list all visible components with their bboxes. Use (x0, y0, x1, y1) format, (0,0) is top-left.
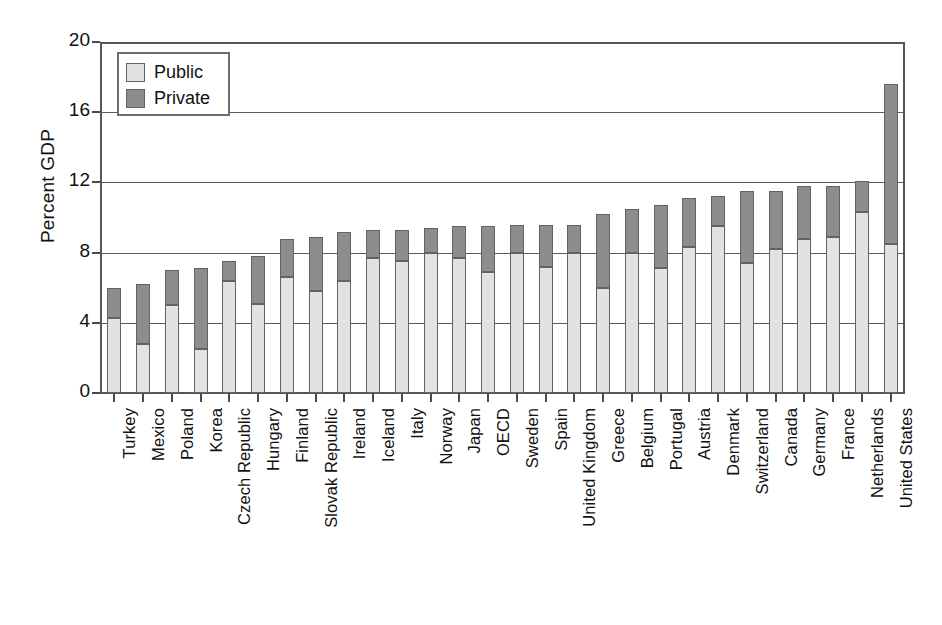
bar-segment-private (740, 191, 754, 263)
bar-segment-public (280, 277, 294, 393)
x-tick-mark (200, 394, 202, 402)
bar-segment-public (855, 212, 869, 393)
x-tick-label: Turkey (120, 408, 139, 458)
x-tick-mark (113, 394, 115, 402)
y-tick-mark (92, 252, 100, 254)
bar-segment-public (136, 344, 150, 393)
x-tick-mark (228, 394, 230, 402)
x-tick-label: Japan (465, 408, 484, 453)
bar-segment-public (682, 247, 696, 393)
y-tick-mark (92, 41, 100, 43)
x-tick-label: Italy (408, 408, 427, 439)
bar-segment-public (165, 305, 179, 393)
x-tick-label: Denmark (724, 408, 743, 476)
bar-slovak-republic (309, 237, 323, 393)
y-tick-mark (92, 322, 100, 324)
x-tick-mark (516, 394, 518, 402)
bar-segment-public (337, 281, 351, 393)
y-tick-label: 4 (44, 310, 90, 332)
x-tick-label: Slovak Republic (322, 408, 341, 528)
x-tick-mark (372, 394, 374, 402)
bar-segment-private (309, 237, 323, 291)
y-tick-mark (92, 181, 100, 183)
bar-segment-private (194, 268, 208, 349)
x-tick-mark (631, 394, 633, 402)
bar-segment-private (682, 198, 696, 247)
bar-segment-private (337, 232, 351, 281)
bar-czech-republic (222, 261, 236, 393)
x-tick-label: Netherlands (868, 408, 887, 498)
y-tick-label: 12 (44, 169, 90, 191)
x-tick-mark (746, 394, 748, 402)
x-tick-label: Belgium (638, 408, 657, 468)
x-tick-label: Ireland (350, 408, 369, 459)
chart-figure: Percent GDP 048121620 TurkeyMexicoPoland… (0, 0, 942, 625)
bar-segment-private (855, 181, 869, 213)
bar-segment-private (452, 226, 466, 258)
y-tick-label: 8 (44, 240, 90, 262)
bar-segment-private (424, 228, 438, 253)
x-tick-mark (832, 394, 834, 402)
legend-item-private: Private (126, 86, 221, 110)
x-tick-mark (142, 394, 144, 402)
bar-segment-public (251, 304, 265, 394)
bar-segment-public (424, 253, 438, 393)
x-tick-mark (573, 394, 575, 402)
x-tick-mark (401, 394, 403, 402)
x-tick-label: Norway (437, 408, 456, 465)
bar-segment-public (107, 318, 121, 393)
bar-segment-private (136, 284, 150, 344)
bar-segment-public (539, 267, 553, 393)
bar-switzerland (740, 191, 754, 393)
x-tick-label: Hungary (264, 408, 283, 471)
bar-segment-private (366, 230, 380, 258)
bar-segment-public (510, 253, 524, 393)
bar-segment-public (596, 288, 610, 393)
bar-segment-public (740, 263, 754, 393)
bar-segment-private (711, 196, 725, 226)
x-tick-label: United Kingdom (580, 408, 599, 527)
bar-segment-private (654, 205, 668, 268)
bar-turkey (107, 288, 121, 393)
bar-segment-private (222, 261, 236, 280)
bar-portugal (654, 205, 668, 393)
chart-legend: Public Private (117, 52, 230, 116)
bar-segment-public (309, 291, 323, 393)
bar-segment-public (625, 253, 639, 393)
bar-segment-public (711, 226, 725, 393)
bar-spain (539, 225, 553, 393)
bar-segment-public (884, 244, 898, 393)
legend-label-private: Private (154, 89, 210, 107)
x-tick-mark (257, 394, 259, 402)
bar-united-states (884, 84, 898, 393)
x-tick-mark (343, 394, 345, 402)
x-tick-label: OECD (494, 408, 513, 456)
bar-segment-private (567, 225, 581, 253)
bar-segment-private (884, 84, 898, 244)
bar-segment-private (395, 230, 409, 262)
bar-korea (194, 268, 208, 393)
bar-segment-public (654, 268, 668, 393)
bar-segment-public (366, 258, 380, 393)
x-tick-label: Poland (178, 408, 197, 460)
x-tick-label: Korea (207, 408, 226, 453)
bar-sweden (510, 225, 524, 393)
bar-segment-private (510, 225, 524, 253)
legend-item-public: Public (126, 60, 221, 84)
bar-mexico (136, 284, 150, 393)
x-tick-label: Finland (293, 408, 312, 463)
bar-segment-private (107, 288, 121, 318)
x-tick-label: Iceland (379, 408, 398, 462)
bar-segment-private (481, 226, 495, 272)
bar-poland (165, 270, 179, 393)
x-tick-mark (861, 394, 863, 402)
x-tick-label: Germany (810, 408, 829, 477)
bar-segment-public (769, 249, 783, 393)
bar-united-kingdom (567, 225, 581, 393)
bar-segment-public (567, 253, 581, 393)
x-tick-mark (775, 394, 777, 402)
bar-segment-private (826, 186, 840, 237)
bar-belgium (625, 209, 639, 393)
x-tick-mark (171, 394, 173, 402)
bar-segment-public (826, 237, 840, 393)
